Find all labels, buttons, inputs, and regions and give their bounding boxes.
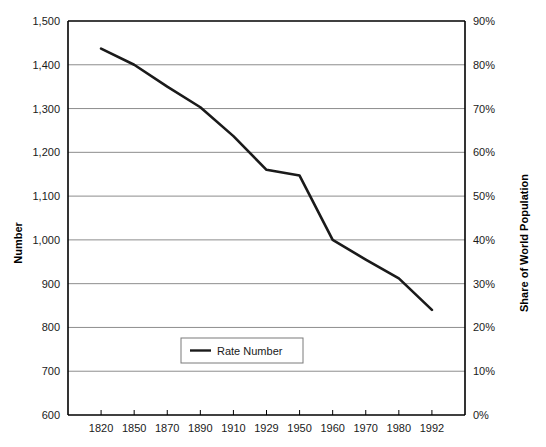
legend-item-label: Rate Number <box>217 345 283 357</box>
chart-container: 6007008009001,0001,1001,2001,3001,4001,5… <box>0 0 546 447</box>
left-tick-label: 900 <box>42 278 60 290</box>
line-chart: 6007008009001,0001,1001,2001,3001,4001,5… <box>0 0 546 447</box>
right-tick-label: 0% <box>473 409 489 421</box>
x-tick-label: 1980 <box>387 422 411 434</box>
left-axis-title: Number <box>12 222 24 264</box>
right-axis-title: Share of World Population <box>518 174 530 312</box>
x-tick-label: 1950 <box>287 422 311 434</box>
left-tick-label: 1,500 <box>32 15 60 27</box>
x-tick-label: 1820 <box>89 422 113 434</box>
right-tick-label: 40% <box>473 234 495 246</box>
left-tick-label: 1,100 <box>32 190 60 202</box>
x-tick-label: 1890 <box>188 422 212 434</box>
right-tick-label: 20% <box>473 321 495 333</box>
left-tick-label: 1,200 <box>32 146 60 158</box>
right-tick-label: 70% <box>473 103 495 115</box>
right-tick-label: 80% <box>473 59 495 71</box>
x-tick-label: 1850 <box>122 422 146 434</box>
right-tick-label: 90% <box>473 15 495 27</box>
chart-legend[interactable]: Rate Number <box>181 338 303 363</box>
right-tick-label: 10% <box>473 365 495 377</box>
x-tick-label: 1870 <box>155 422 179 434</box>
x-tick-label: 1929 <box>254 422 278 434</box>
left-tick-label: 1,400 <box>32 59 60 71</box>
left-tick-label: 1,300 <box>32 103 60 115</box>
x-tick-label: 1910 <box>221 422 245 434</box>
right-tick-label: 50% <box>473 190 495 202</box>
right-tick-label: 60% <box>473 146 495 158</box>
left-tick-label: 1,000 <box>32 234 60 246</box>
left-tick-label: 600 <box>42 409 60 421</box>
x-tick-labels-group: 1820185018701890191019291950196019701980… <box>89 422 444 434</box>
x-tick-label: 1970 <box>354 422 378 434</box>
left-tick-label: 800 <box>42 321 60 333</box>
right-tick-label: 30% <box>473 278 495 290</box>
left-tick-label: 700 <box>42 365 60 377</box>
x-tick-label: 1960 <box>320 422 344 434</box>
x-tick-label: 1992 <box>420 422 444 434</box>
chart-background <box>0 0 546 447</box>
